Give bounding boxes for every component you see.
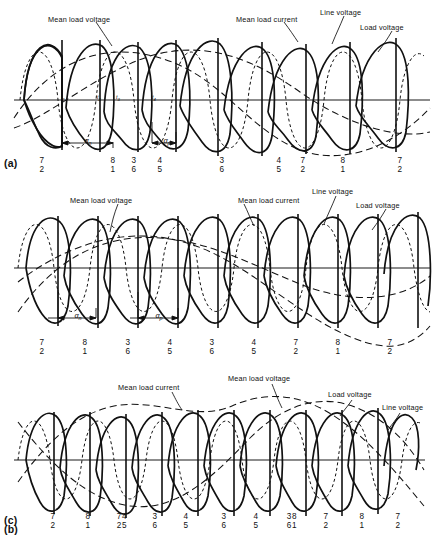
alpha-p-label-b: αp bbox=[155, 311, 162, 321]
time-mark-t1-a: t1 bbox=[61, 94, 65, 102]
device-number-cell: 72 bbox=[300, 156, 305, 175]
panel-b: (b) Mean load voltage Mean load current … bbox=[0, 180, 434, 366]
device-number-cell: 36 bbox=[209, 338, 214, 357]
callout-mean-load-current-c: Mean load current bbox=[118, 384, 179, 391]
device-number-cell: 81 bbox=[335, 338, 340, 357]
callout-line-voltage-a: Line voltage bbox=[320, 9, 361, 16]
waveform-figure: (a) Mean load voltage Mean load current … bbox=[0, 0, 434, 537]
device-number-cell: 72 bbox=[395, 512, 400, 531]
device-number-row-b: 72 81 36 45 36 45 72 81 72 bbox=[0, 338, 434, 362]
device-number-cell: 45 bbox=[183, 512, 188, 531]
alpha-p-label-a: αp bbox=[163, 136, 170, 146]
callout-mean-load-voltage-b: Mean load voltage bbox=[70, 197, 132, 204]
device-number-cell: 45 bbox=[167, 338, 172, 357]
callout-mean-load-voltage-c: Mean load voltage bbox=[228, 375, 290, 382]
alpha-n-label-a: αn bbox=[84, 136, 91, 146]
device-number-cell: 45 bbox=[157, 156, 162, 175]
mean-load-voltage-curve-a bbox=[14, 52, 430, 156]
callout-load-voltage-b: Load voltage bbox=[356, 202, 400, 209]
device-number-cell: 72 bbox=[50, 512, 55, 531]
callout-line-voltage-b: Line voltage bbox=[312, 188, 353, 195]
device-number-row-c: 72 81 7425 36 45 36 45 3861 72 81 72 bbox=[0, 512, 434, 536]
device-number-cell: 72 bbox=[39, 156, 44, 175]
device-number-cell: 45 bbox=[276, 156, 281, 175]
device-number-cell: 81 bbox=[82, 338, 87, 357]
device-number-cell: 45 bbox=[251, 338, 256, 357]
device-number-cell: 45 bbox=[253, 512, 258, 531]
device-number-cell: 36 bbox=[219, 156, 224, 175]
load-voltage-curve-b bbox=[26, 212, 430, 328]
device-number-cell: 72 bbox=[323, 512, 328, 531]
device-number-cell: 3861 bbox=[287, 512, 297, 531]
device-number-cell: 81 bbox=[340, 156, 345, 175]
device-number-cell: 81 bbox=[110, 156, 115, 175]
device-number-cell: 72 bbox=[293, 338, 298, 357]
device-number-cell: 81 bbox=[359, 512, 364, 531]
callout-mean-load-voltage-a: Mean load voltage bbox=[48, 16, 110, 23]
device-number-cell: 72 bbox=[39, 338, 44, 357]
callout-mean-load-current-b: Mean load current bbox=[238, 197, 299, 204]
device-number-cell: 72 bbox=[397, 156, 402, 175]
callout-load-voltage-a: Load voltage bbox=[360, 24, 404, 31]
callout-load-voltage-c: Load voltage bbox=[328, 391, 372, 398]
callout-line-voltage-c: Line voltage bbox=[382, 404, 423, 411]
device-number-cell: 36 bbox=[131, 156, 136, 175]
callout-mean-load-current-a: Mean load current bbox=[236, 16, 297, 23]
device-number-cell: 81 bbox=[85, 512, 90, 531]
time-mark-t4-a: t4 bbox=[152, 94, 156, 102]
device-number-cell: 36 bbox=[152, 512, 157, 531]
time-mark-t3-a: t3 bbox=[116, 94, 120, 102]
device-number-row-a: 72 81 36 45 36 45 72 81 72 bbox=[0, 156, 434, 180]
device-number-cell: 36 bbox=[221, 512, 226, 531]
alpha-dimension-arrows-a bbox=[62, 122, 176, 148]
mean-load-voltage-curve-c bbox=[18, 397, 424, 506]
time-mark-t2-a: t2 bbox=[97, 94, 101, 102]
device-number-cell: 72 bbox=[387, 338, 392, 357]
alpha-n-label-b: αn bbox=[74, 311, 81, 321]
load-voltage-curve-a bbox=[24, 38, 408, 156]
device-number-cell: 7425 bbox=[117, 512, 127, 531]
panel-c: (c) Mean load current Mean load voltage … bbox=[0, 366, 434, 537]
panel-a: (a) Mean load voltage Mean load current … bbox=[0, 0, 434, 180]
device-number-cell: 36 bbox=[125, 338, 130, 357]
